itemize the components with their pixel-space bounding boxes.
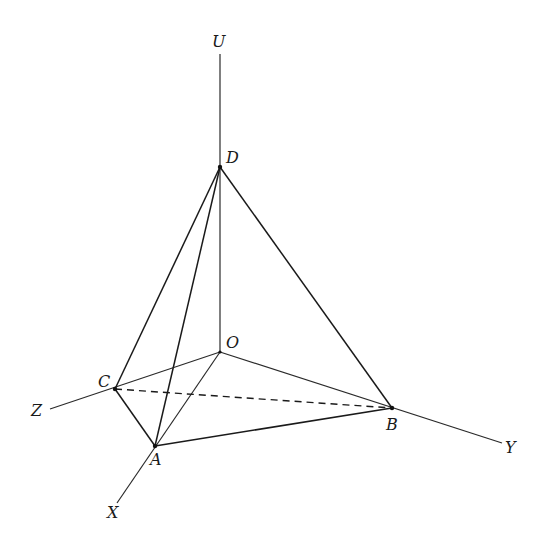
vertex-c xyxy=(113,387,117,391)
vertices xyxy=(113,165,394,448)
label-x: X xyxy=(105,503,119,522)
label-o: O xyxy=(226,333,239,352)
label-z: Z xyxy=(30,401,43,420)
label-a: A xyxy=(148,450,162,469)
edge-ca xyxy=(115,389,155,446)
axis-z xyxy=(50,352,220,409)
label-b: B xyxy=(385,415,398,434)
axes xyxy=(50,54,502,503)
edge-ab xyxy=(155,408,392,446)
edge-cb-hidden xyxy=(115,389,392,408)
edge-db xyxy=(220,167,392,408)
edge-da xyxy=(155,167,220,446)
label-d: D xyxy=(225,148,239,167)
label-y: Y xyxy=(505,438,517,457)
edge-dc xyxy=(115,167,220,389)
vertex-d xyxy=(218,165,222,169)
tetrahedron-diagram: U D O C Z A B Y X xyxy=(0,0,544,548)
vertex-a xyxy=(153,444,157,448)
label-u: U xyxy=(212,32,226,51)
vertex-o xyxy=(218,350,221,353)
labels: U D O C Z A B Y X xyxy=(30,32,517,522)
label-c: C xyxy=(98,372,110,391)
vertex-b xyxy=(390,406,394,410)
axis-x xyxy=(117,352,220,503)
tetrahedron-edges xyxy=(115,167,392,446)
